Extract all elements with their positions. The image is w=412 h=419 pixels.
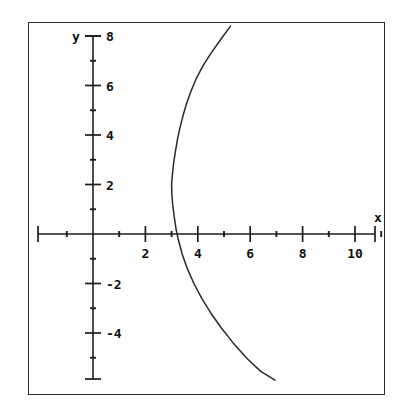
y-tick-label: 2 bbox=[106, 178, 114, 193]
y-tick-label: 8 bbox=[106, 29, 114, 44]
x-axis-group: 246810 bbox=[38, 226, 381, 261]
x-tick-label: 6 bbox=[246, 246, 254, 261]
y-axis-tick-labels: -4-22468 bbox=[106, 29, 122, 341]
y-tick-label: -2 bbox=[106, 277, 122, 292]
x-axis-tick-labels: 246810 bbox=[141, 246, 363, 261]
y-tick-label: -4 bbox=[106, 326, 122, 341]
figure-canvas: 246810 -4-22468 x y bbox=[0, 0, 412, 419]
x-axis-label: x bbox=[374, 210, 382, 225]
y-tick-label: 6 bbox=[106, 79, 114, 94]
x-tick-label: 2 bbox=[141, 246, 149, 261]
x-tick-label: 8 bbox=[299, 246, 307, 261]
graph-plot: 246810 -4-22468 x y bbox=[0, 0, 412, 419]
x-tick-label: 4 bbox=[194, 246, 202, 261]
x-tick-label: 10 bbox=[347, 246, 363, 261]
y-axis-label: y bbox=[72, 29, 80, 44]
parabola-curve bbox=[172, 26, 275, 380]
y-tick-label: 4 bbox=[106, 128, 114, 143]
y-axis-group: -4-22468 bbox=[85, 29, 122, 379]
